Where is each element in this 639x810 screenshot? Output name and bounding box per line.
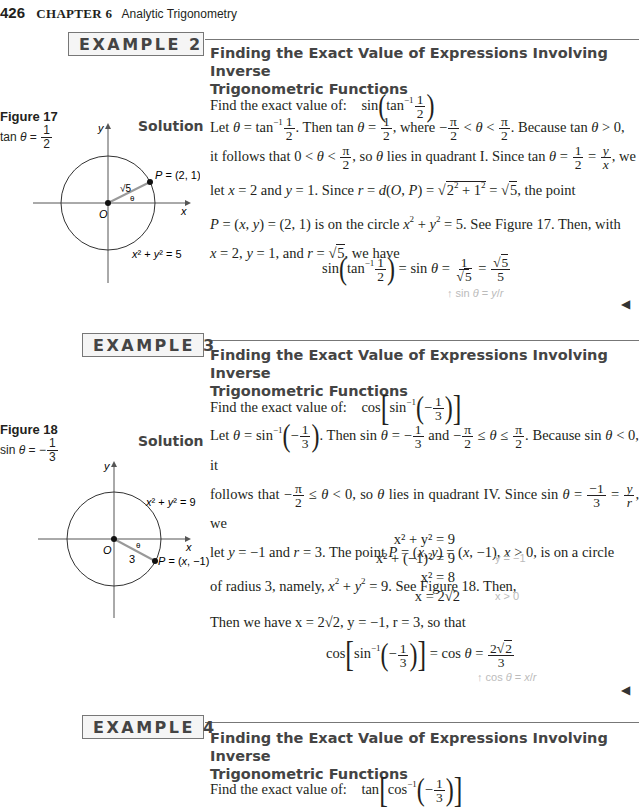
example-label: EXAMPLE 2	[79, 35, 203, 54]
section-rule	[205, 722, 639, 723]
example-label-box: EXAMPLE 4	[82, 715, 204, 739]
title-line: Finding the Exact Value of Expressions I…	[210, 44, 639, 80]
svg-text:x: x	[180, 205, 187, 217]
solution-paragraph: Let θ = tan−112. Then tan θ = 12, where …	[210, 108, 639, 268]
svg-text:y: y	[103, 460, 111, 472]
annotation: ↑ sin θ = y/r	[447, 287, 503, 299]
solution-line: it follows that 0 < θ < π2, so θ lies in…	[210, 142, 639, 171]
svg-text:O: O	[99, 208, 108, 220]
example-label: EXAMPLE 3	[93, 336, 217, 355]
running-head: 426 CHAPTER 6 Analytic Trigonometry	[0, 4, 237, 22]
y-arrow-icon	[111, 461, 117, 467]
example-prompt: Find the exact value of: tan[cos−1(−13)]	[210, 770, 462, 805]
chapter-label: CHAPTER 6	[36, 6, 112, 21]
derivation-eq: x = 2√2	[300, 587, 460, 606]
figure-18-diagram: y x O 3 θ P = (x, −1) x² + y² = 9	[0, 420, 210, 620]
svg-text:P = (2, 1): P = (2, 1)	[155, 169, 200, 181]
solution-line: Let θ = tan−112. Then tan θ = 12, where …	[210, 108, 639, 142]
derivation-step: x = 2√2x > 0	[300, 587, 639, 606]
derivation: x² + y² = 9 x² + (−1)² = 9y = −1 x² = 8 …	[300, 530, 639, 606]
derivation-note: y = −1	[495, 549, 526, 568]
end-of-example-icon: ◀	[621, 297, 630, 312]
chapter-title: Analytic Trigonometry	[122, 7, 237, 21]
example-label-box: EXAMPLE 3	[82, 333, 204, 357]
svg-text:x² + y² = 5: x² + y² = 5	[131, 248, 182, 260]
end-of-example-icon: ◀	[621, 683, 630, 698]
title-line: Finding the Exact Value of Expressions I…	[210, 729, 639, 765]
svg-text:P = (x, −1): P = (x, −1)	[158, 555, 209, 567]
svg-text:θ: θ	[130, 194, 135, 203]
point-p	[147, 179, 153, 185]
solution-line: let x = 2 and y = 1. Since r = d(O, P) =…	[210, 171, 639, 205]
example-label: EXAMPLE 4	[93, 718, 217, 737]
derivation-step: x² + y² = 9	[300, 530, 639, 549]
section-rule	[205, 39, 639, 40]
result-equation: sin(tan−112) = sin θ = 1√5 = √55	[322, 256, 511, 283]
derivation-step: x² + (−1)² = 9y = −1	[300, 549, 639, 568]
section-rule	[205, 340, 639, 341]
y-arrow-icon	[105, 123, 111, 129]
prompt-text: Find the exact value of:	[210, 399, 347, 415]
figure-17-diagram: y x O √5 θ P = (2, 1) x² + y² = 5	[0, 110, 200, 300]
svg-text:3: 3	[129, 553, 135, 565]
svg-text:x: x	[185, 541, 192, 553]
derivation-eq: x² + (−1)² = 9	[300, 549, 455, 568]
title-line: Finding the Exact Value of Expressions I…	[210, 346, 639, 382]
then-text: Then we have x = 2√2, y = −1, r = 3, so …	[210, 608, 466, 637]
prompt-text: Find the exact value of:	[210, 781, 347, 797]
svg-text:x² + y² = 9: x² + y² = 9	[145, 496, 196, 508]
page-number: 426	[0, 4, 25, 21]
result-equation: cos[sin−1(−13)] = cos θ = 2√23	[326, 640, 515, 670]
derivation-eq: x² + y² = 9	[300, 530, 455, 549]
svg-text:y: y	[97, 122, 105, 134]
svg-text:√5: √5	[120, 183, 131, 194]
svg-text:O: O	[103, 544, 112, 556]
svg-text:θ: θ	[136, 541, 141, 550]
example-label-box: EXAMPLE 2	[68, 32, 204, 56]
derivation-eq: x² = 8	[300, 568, 455, 587]
solution-line: Let θ = sin−1(−13). Then sin θ = −13 and…	[210, 416, 639, 480]
annotation: ↑ cos θ = x/r	[477, 671, 536, 683]
derivation-step: x² = 8	[300, 568, 639, 587]
derivation-note: x > 0	[495, 587, 519, 606]
solution-line: P = (x, y) = (2, 1) is on the circle x2 …	[210, 205, 639, 239]
